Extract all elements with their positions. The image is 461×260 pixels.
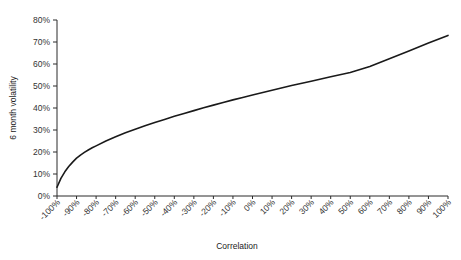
x-tick-label: -90% <box>60 197 81 218</box>
x-tick-label: 100% <box>430 197 453 220</box>
y-tick-label: 60% <box>33 59 50 69</box>
y-tick-label: 10% <box>33 169 50 179</box>
x-tick-label: 0% <box>242 197 258 213</box>
x-tick-label: -80% <box>80 197 101 218</box>
y-tick-label: 70% <box>33 37 50 47</box>
y-axis-title: 6 month volatility <box>8 76 18 140</box>
y-tick-label: 0% <box>38 191 51 201</box>
x-tick-label: 60% <box>356 197 375 216</box>
y-tick-label: 80% <box>33 15 50 25</box>
y-tick-label: 50% <box>33 81 50 91</box>
x-tick-label: 40% <box>317 197 336 216</box>
x-axis-group: -100%-90%-80%-70%-60%-50%-40%-30%-20%-10… <box>37 196 453 222</box>
chart-figure: 0%10%20%30%40%50%60%70%80% -100%-90%-80%… <box>0 0 461 260</box>
x-tick-label: -30% <box>178 197 199 218</box>
y-tick-label: 40% <box>33 103 50 113</box>
x-tick-label: 50% <box>336 197 355 216</box>
x-axis-ticks: -100%-90%-80%-70%-60%-50%-40%-30%-20%-10… <box>37 196 453 222</box>
x-tick-label: 20% <box>277 197 296 216</box>
x-axis-title: Correlation <box>216 241 258 251</box>
x-tick-label: 30% <box>297 197 316 216</box>
x-tick-label: -50% <box>139 197 160 218</box>
y-tick-label: 30% <box>33 125 50 135</box>
y-tick-label: 20% <box>33 147 50 157</box>
volatility-curve <box>57 35 448 187</box>
x-tick-label: -20% <box>197 197 218 218</box>
x-tick-label: -60% <box>119 197 140 218</box>
y-axis-ticks: 0%10%20%30%40%50%60%70%80% <box>33 15 57 201</box>
x-tick-label: -40% <box>158 197 179 218</box>
x-tick-label: -70% <box>99 197 120 218</box>
x-tick-label: -10% <box>217 197 238 218</box>
volatility-correlation-line-chart: 0%10%20%30%40%50%60%70%80% -100%-90%-80%… <box>0 0 461 260</box>
x-tick-label: 80% <box>395 197 414 216</box>
x-tick-label: 70% <box>375 197 394 216</box>
x-tick-label: 10% <box>258 197 277 216</box>
y-axis-group: 0%10%20%30%40%50%60%70%80% <box>33 15 57 201</box>
